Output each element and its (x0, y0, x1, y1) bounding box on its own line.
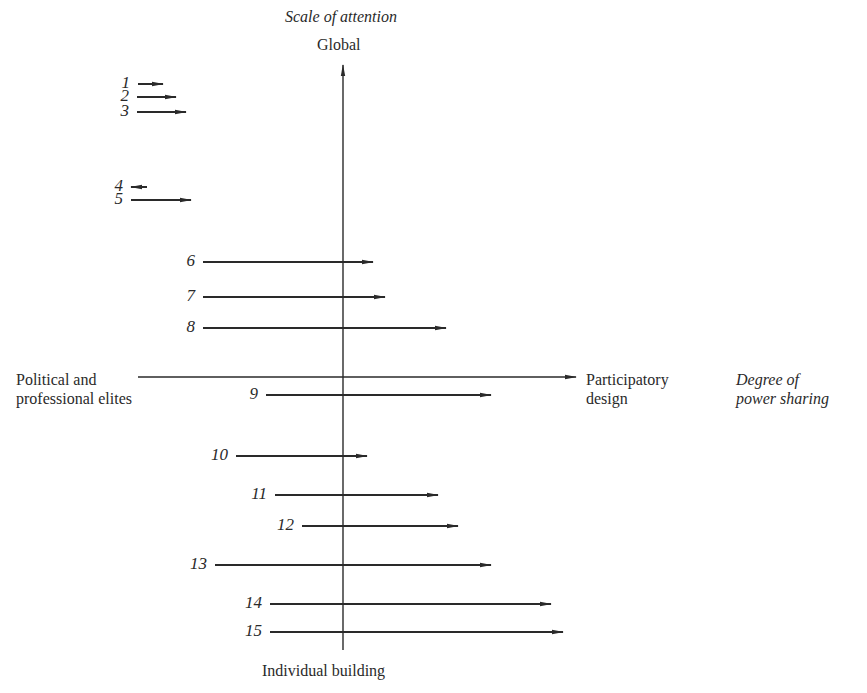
arrow-label-10: 10 (198, 446, 228, 464)
horizontal-axis-title-line2: power sharing (736, 389, 829, 408)
vertical-axis-title: Scale of attention (285, 7, 397, 26)
arrow-label-15: 15 (232, 622, 262, 640)
arrow-label-5: 5 (93, 190, 123, 208)
vertical-bottom-label: Individual building (262, 661, 385, 680)
arrow-label-6: 6 (165, 252, 195, 270)
arrow-label-7: 7 (165, 287, 195, 305)
horizontal-left-label: Political and professional elites (16, 370, 132, 408)
horizontal-axis-title: Degree of power sharing (736, 370, 829, 408)
arrows-group (131, 84, 563, 632)
horizontal-axis-title-line1: Degree of (736, 370, 829, 389)
horizontal-right-label: Participatory design (586, 370, 669, 408)
arrow-label-13: 13 (177, 555, 207, 573)
arrow-label-11: 11 (237, 485, 267, 503)
arrow-label-14: 14 (232, 594, 262, 612)
horizontal-left-label-line2: professional elites (16, 389, 132, 408)
arrow-label-9: 9 (228, 385, 258, 403)
arrow-label-3: 3 (99, 102, 129, 120)
vertical-top-label: Global (317, 35, 361, 54)
horizontal-right-label-line1: Participatory (586, 370, 669, 389)
horizontal-right-label-line2: design (586, 389, 669, 408)
arrow-label-12: 12 (264, 516, 294, 534)
horizontal-left-label-line1: Political and (16, 370, 132, 389)
arrow-label-8: 8 (165, 318, 195, 336)
diagram-canvas (0, 0, 867, 693)
